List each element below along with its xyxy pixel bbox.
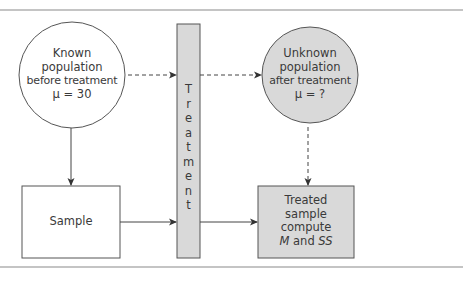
mean-symbol: M bbox=[279, 234, 289, 248]
unknown-population-line2: population bbox=[262, 61, 358, 75]
treated-sample-label: Treated sample compute M and SS bbox=[258, 194, 354, 248]
known-population-mean: μ = 30 bbox=[19, 88, 125, 102]
unknown-population-line3: after treatment bbox=[262, 74, 358, 88]
and-text: and bbox=[289, 234, 318, 248]
treatment-label: T r e a t m e n t bbox=[177, 82, 200, 213]
treated-sample-line2: sample bbox=[258, 208, 354, 222]
treated-sample-line1: Treated bbox=[258, 194, 354, 208]
diagram-canvas bbox=[0, 0, 463, 282]
ss-symbol: SS bbox=[318, 234, 332, 248]
known-population-line1: Known bbox=[19, 47, 125, 61]
sample-label: Sample bbox=[22, 215, 120, 229]
unknown-population-mean: μ = ? bbox=[262, 88, 358, 102]
treatment-letter: n bbox=[177, 184, 200, 199]
treated-sample-line3: compute bbox=[258, 221, 354, 235]
treatment-letter: m bbox=[177, 155, 200, 170]
known-population-label: Known population before treatment μ = 30 bbox=[19, 47, 125, 101]
treatment-letter: r bbox=[177, 97, 200, 112]
treatment-letter: t bbox=[177, 140, 200, 155]
unknown-population-label: Unknown population after treatment μ = ? bbox=[262, 47, 358, 101]
unknown-population-line1: Unknown bbox=[262, 47, 358, 61]
treatment-letter: e bbox=[177, 111, 200, 126]
treatment-letter: T bbox=[177, 82, 200, 97]
known-population-line3: before treatment bbox=[19, 74, 125, 88]
treatment-letter: a bbox=[177, 126, 200, 141]
treatment-letter: e bbox=[177, 169, 200, 184]
treated-sample-line4: M and SS bbox=[258, 235, 354, 249]
known-population-line2: population bbox=[19, 61, 125, 75]
treatment-letter: t bbox=[177, 198, 200, 213]
